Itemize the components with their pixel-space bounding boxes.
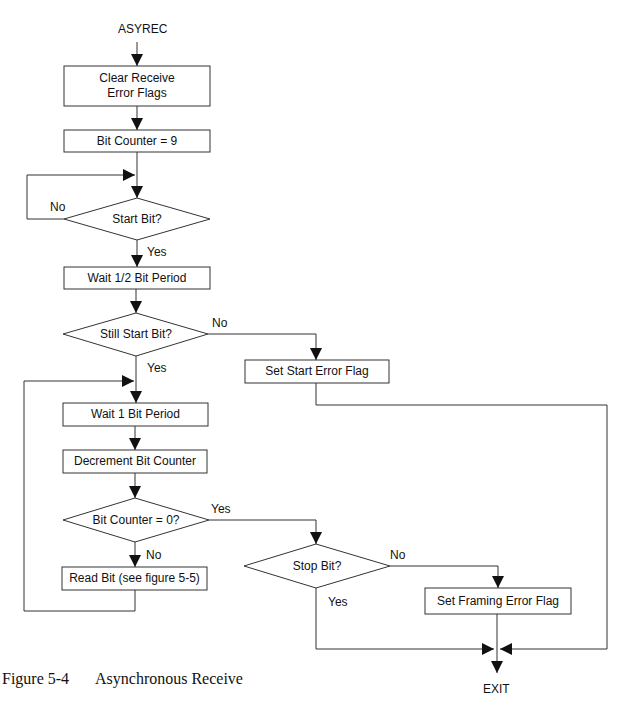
node-read-bit-text: Read Bit (see figure 5-5): [62, 567, 207, 590]
node-set-start-error-text: Set Start Error Flag: [245, 360, 389, 383]
edge-label-start-bit-yes: Yes: [147, 245, 167, 259]
node-start-bit-text: Start Bit?: [64, 209, 210, 229]
node-stop-bit-text: Stop Bit?: [244, 556, 390, 576]
node-set-framing-error-text: Set Framing Error Flag: [425, 588, 571, 614]
node-wait-half-text: Wait 1/2 Bit Period: [64, 267, 210, 289]
figure-title: Asynchronous Receive: [95, 670, 243, 688]
edge-counterzero-yes: [209, 520, 316, 544]
edge-label-still-start-no: No: [212, 316, 227, 330]
node-clear-flags-text: Clear Receive Error Flags: [64, 66, 210, 106]
edge-label-stop-bit-yes: Yes: [328, 595, 348, 609]
edge-label-stop-bit-no: No: [390, 548, 405, 562]
node-still-start-text: Still Start Bit?: [63, 324, 209, 344]
edge-label-counter-zero-yes: Yes: [211, 502, 231, 516]
node-counter-zero-text: Bit Counter = 0?: [63, 510, 209, 530]
figure-number: Figure 5-4: [2, 670, 69, 688]
edge-stillstart-no: [208, 334, 316, 360]
start-terminal-label: ASYREC: [118, 22, 167, 36]
edge-label-counter-zero-no: No: [146, 548, 161, 562]
end-terminal-label: EXIT: [483, 682, 510, 696]
edge-stopbit-no: [390, 566, 498, 588]
node-decrement-text: Decrement Bit Counter: [63, 450, 207, 473]
edge-label-start-bit-no: No: [50, 200, 65, 214]
node-wait-one-text: Wait 1 Bit Period: [63, 403, 208, 426]
edge-label-still-start-yes: Yes: [147, 361, 167, 375]
node-bit-counter-init-text: Bit Counter = 9: [64, 130, 210, 152]
